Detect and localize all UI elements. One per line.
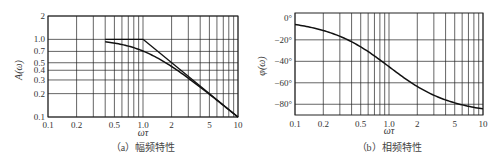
- y-tick-label: 1.0: [34, 34, 46, 44]
- bode-plots: 0.10.20.51.025100.10.20.30.40.50.71.02 0…: [0, 0, 503, 167]
- y-tick-label: −60°: [274, 78, 292, 88]
- phase-x-label: ωτ: [384, 125, 395, 136]
- y-tick-label: 0.1: [34, 112, 45, 122]
- y-tick-label: 0.2: [34, 89, 45, 99]
- x-tick-label: 10: [479, 119, 489, 129]
- phase-chart: 0.10.20.51.025100°−20°−40°−60°−80°: [274, 13, 488, 129]
- y-tick-label: −20°: [274, 35, 292, 45]
- x-tick-label: 5: [207, 120, 212, 130]
- y-tick-label: −80°: [274, 99, 292, 109]
- asymptote-slope: [143, 39, 238, 117]
- x-tick-label: 0.2: [318, 119, 329, 129]
- amplitude-x-label: ωτ: [138, 127, 149, 138]
- x-tick-label: 5: [452, 119, 457, 129]
- y-tick-label: 0.7: [34, 46, 46, 56]
- y-tick-label: 0.5: [34, 58, 46, 68]
- amplitude-chart: 0.10.20.51.025100.10.20.30.40.50.71.02: [34, 11, 243, 130]
- phase-y-label: φ(ω): [256, 56, 268, 76]
- y-tick-label: 0°: [284, 13, 293, 23]
- x-tick-label: 2: [415, 119, 420, 129]
- x-tick-label: 0.1: [289, 119, 300, 129]
- y-tick-label: 2: [41, 11, 46, 21]
- x-tick-label: 0.2: [71, 120, 82, 130]
- amplitude-caption: （a）幅频特性: [111, 141, 175, 153]
- phase-caption: （b）相频特性: [357, 141, 422, 153]
- x-tick-label: 0.5: [109, 120, 121, 130]
- x-tick-label: 0.5: [355, 119, 367, 129]
- x-tick-label: 10: [234, 120, 244, 130]
- y-tick-label: −40°: [274, 56, 292, 66]
- x-tick-label: 2: [169, 120, 174, 130]
- y-tick-label: 0.3: [34, 75, 46, 85]
- amplitude-y-label: A(ω): [13, 59, 25, 80]
